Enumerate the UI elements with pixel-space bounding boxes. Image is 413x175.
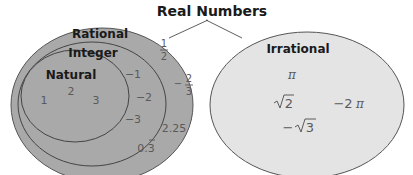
svg-text:−2: −2: [333, 96, 352, 111]
natural-number-3: 3: [93, 94, 100, 107]
svg-text:3: 3: [186, 86, 192, 97]
natural-number-1: 1: [41, 94, 48, 107]
svg-text:2: 2: [186, 73, 192, 84]
leader-line-irrational: [206, 20, 242, 38]
svg-text:−: −: [174, 78, 182, 89]
natural-number-2: 2: [68, 85, 75, 98]
irrational-label: Irrational: [266, 42, 329, 56]
integer-label: Integer: [68, 46, 118, 60]
natural-set: [21, 50, 129, 142]
svg-text:2: 2: [285, 96, 293, 111]
rational-label: Rational: [72, 27, 128, 41]
svg-text:0.3: 0.3: [137, 142, 155, 155]
decimal-2-25: 2.25: [162, 122, 187, 135]
integer-number-neg3: −3: [125, 113, 141, 126]
svg-text:π: π: [355, 97, 365, 111]
diagram-title: Real Numbers: [157, 3, 267, 19]
fraction-one-half: 1 2: [160, 38, 168, 62]
svg-text:3: 3: [306, 120, 314, 135]
svg-text:1: 1: [161, 38, 167, 49]
irrational-neg-2pi: −2 π: [333, 96, 365, 111]
natural-label: Natural: [46, 68, 97, 82]
svg-text:2: 2: [161, 51, 167, 62]
integer-number-neg2: −2: [136, 91, 152, 104]
integer-number-neg1: −1: [125, 68, 141, 81]
irrational-pi: π: [287, 68, 297, 82]
leader-line-rational: [169, 20, 208, 38]
svg-text:−: −: [283, 120, 294, 135]
real-numbers-venn-diagram: Real Numbers Rational Integer Natural Ir…: [0, 0, 413, 175]
repeating-decimal-0-3: 0.3: [137, 140, 155, 155]
